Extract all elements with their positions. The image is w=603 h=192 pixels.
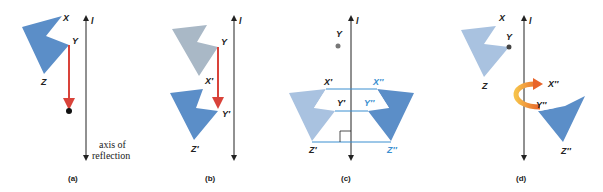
label-x-prime: X′ bbox=[204, 76, 214, 86]
label-y-dprime: Y′′ bbox=[536, 100, 547, 110]
caption-d: (d) bbox=[516, 174, 527, 183]
label-z: Z bbox=[40, 77, 47, 87]
label-x-prime: X′ bbox=[323, 77, 333, 87]
label-z-dprime: Z′′ bbox=[560, 146, 572, 156]
glide-reflection-figure: X Y Z l axis of reflection (a) Y X′ Y′ Z… bbox=[0, 0, 603, 192]
point-y bbox=[336, 44, 341, 49]
label-axis-l: l bbox=[239, 16, 242, 26]
caption-a: (a) bbox=[68, 174, 78, 183]
label-z-prime: Z′ bbox=[190, 144, 199, 154]
shape-original-ghost bbox=[172, 25, 218, 76]
label-x: X bbox=[62, 13, 70, 23]
label-y: Y bbox=[506, 32, 513, 42]
panel-a: X Y Z l axis of reflection (a) bbox=[22, 13, 130, 183]
shape-xyz bbox=[22, 16, 69, 74]
label-y-prime: Y′ bbox=[337, 98, 346, 108]
label-y: Y bbox=[221, 37, 228, 47]
label-y: Y bbox=[336, 29, 343, 39]
caption-c: (c) bbox=[341, 174, 351, 183]
axis-note-2: reflection bbox=[92, 150, 130, 161]
rotation-arrowhead bbox=[533, 78, 543, 90]
label-x-dprime: X′′ bbox=[372, 77, 384, 87]
label-x: X bbox=[498, 13, 506, 23]
shape-original bbox=[461, 26, 509, 77]
panel-c: Y X′ X′′ Y′ Y′′ Z′ Z′′ l (c) bbox=[289, 16, 414, 183]
label-y: Y bbox=[72, 36, 79, 46]
caption-b: (b) bbox=[205, 174, 216, 183]
translated-point bbox=[66, 108, 72, 114]
right-angle-mark bbox=[340, 131, 351, 142]
label-z-dprime: Z′′ bbox=[386, 145, 398, 155]
axis-note-1: axis of bbox=[99, 139, 127, 150]
point-y bbox=[507, 45, 512, 50]
panel-d: X Y Z X′′ Y′′ Z′′ l (d) bbox=[461, 13, 585, 183]
label-x-dprime: X′′ bbox=[547, 79, 559, 89]
label-y-dprime: Y′′ bbox=[364, 98, 375, 108]
label-z: Z bbox=[481, 81, 488, 91]
label-axis-l: l bbox=[91, 16, 94, 26]
label-axis-l: l bbox=[356, 16, 359, 26]
label-axis-l: l bbox=[529, 16, 532, 26]
panel-b: Y X′ Y′ Z′ l (b) bbox=[170, 16, 242, 183]
label-z-prime: Z′ bbox=[308, 145, 317, 155]
label-y-prime: Y′ bbox=[222, 109, 231, 119]
shape-translated bbox=[170, 89, 218, 140]
